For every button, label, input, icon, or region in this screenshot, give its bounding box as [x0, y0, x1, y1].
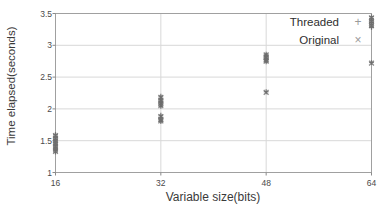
y-axis-label: Time elapsed(seconds)	[5, 26, 17, 145]
y-tick-label: 1	[26, 168, 52, 178]
legend-label-threaded: Threaded	[290, 16, 339, 28]
x-tick-label: 32	[147, 178, 175, 188]
x-tick-label: 64	[358, 178, 378, 188]
y-tick-label: 2.5	[26, 72, 52, 82]
x-axis-label: Variable size(bits)	[55, 190, 371, 204]
scatter-chart: Time elapsed(seconds) Variable size(bits…	[0, 0, 378, 212]
x-tick-label: 16	[42, 178, 70, 188]
legend-marker-plus-icon: +	[353, 16, 363, 28]
y-tick-label: 1.5	[26, 136, 52, 146]
x-tick-label: 48	[252, 178, 280, 188]
y-axis-label-container: Time elapsed(seconds)	[0, 0, 22, 172]
legend-entry-original: Original ×	[255, 31, 363, 48]
legend-marker-cross-icon: ×	[353, 34, 363, 46]
y-tick-label: 3.5	[26, 9, 52, 19]
y-tick-label: 2	[26, 104, 52, 114]
y-tick-label: 3	[26, 40, 52, 50]
legend-entry-threaded: Threaded +	[255, 13, 363, 30]
legend-label-original: Original	[299, 34, 339, 46]
